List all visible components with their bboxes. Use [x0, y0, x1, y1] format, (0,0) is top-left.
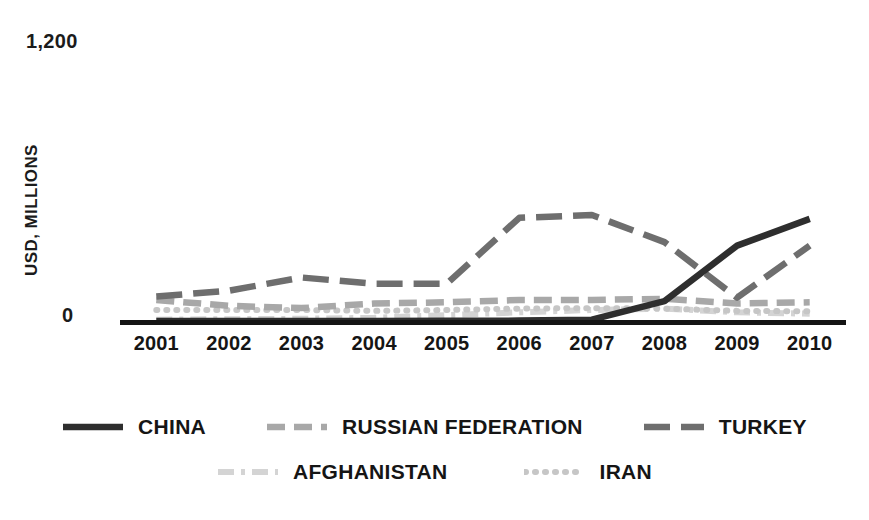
line-swatch-dashed-medium: [643, 420, 705, 434]
x-axis-label-2007: 2007: [556, 332, 629, 362]
legend-label: TURKEY: [719, 415, 807, 439]
line-swatch-dotted-pale: [524, 465, 586, 479]
x-axis-label-2008: 2008: [628, 332, 701, 362]
x-axis-label-2010: 2010: [773, 332, 846, 362]
x-axis-label-2002: 2002: [193, 332, 266, 362]
line-swatch-dashed-light: [266, 420, 328, 434]
chart-legend: CHINARUSSIAN FEDERATIONTURKEY AFGHANISTA…: [0, 404, 869, 494]
legend-item-russian-federation[interactable]: RUSSIAN FEDERATION: [266, 415, 583, 439]
series-line-russian-federation: [156, 299, 809, 308]
legend-item-turkey[interactable]: TURKEY: [643, 415, 807, 439]
legend-row-primary: CHINARUSSIAN FEDERATIONTURKEY: [0, 404, 869, 450]
line-chart: 1,200 0 USD, MILLIONS 200120022003200420…: [0, 0, 869, 520]
x-axis-label-2001: 2001: [120, 332, 193, 362]
legend-label: CHINA: [138, 415, 206, 439]
plot-area: [0, 0, 869, 360]
x-axis-label-2009: 2009: [701, 332, 774, 362]
legend-label: AFGHANISTAN: [293, 460, 448, 484]
line-swatch-dashdot-pale: [217, 465, 279, 479]
x-axis-label-2005: 2005: [410, 332, 483, 362]
legend-label: IRAN: [600, 460, 653, 484]
legend-item-china[interactable]: CHINA: [62, 415, 206, 439]
line-swatch-solid-dark: [62, 420, 124, 434]
series-line-turkey: [156, 215, 809, 298]
legend-item-afghanistan[interactable]: AFGHANISTAN: [217, 460, 448, 484]
x-axis-label-2004: 2004: [338, 332, 411, 362]
plot-svg: [0, 0, 869, 360]
x-axis-labels: 2001200220032004200520062007200820092010: [120, 332, 846, 362]
x-axis-label-2003: 2003: [265, 332, 338, 362]
legend-row-secondary: AFGHANISTANIRAN: [0, 450, 869, 494]
legend-label: RUSSIAN FEDERATION: [342, 415, 583, 439]
series-layer: [156, 215, 809, 321]
x-axis-label-2006: 2006: [483, 332, 556, 362]
legend-item-iran[interactable]: IRAN: [524, 460, 653, 484]
